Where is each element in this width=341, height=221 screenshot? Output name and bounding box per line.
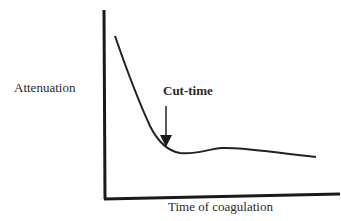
- cut-time-arrow-head-icon: [160, 135, 172, 147]
- attenuation-curve: [115, 36, 316, 157]
- x-axis-label: Time of coagulation: [168, 199, 273, 215]
- chart-canvas: [0, 0, 341, 221]
- y-axis-label: Attenuation: [14, 80, 75, 96]
- cut-time-annotation: Cut-time: [163, 83, 213, 99]
- y-axis: [104, 10, 105, 199]
